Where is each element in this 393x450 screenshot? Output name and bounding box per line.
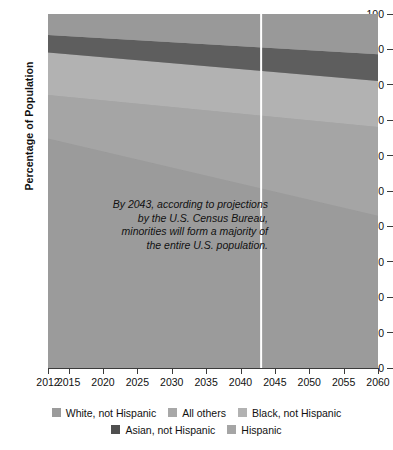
y-tick-mark xyxy=(387,155,393,156)
legend-label: All others xyxy=(182,407,226,419)
x-tick-label: 2020 xyxy=(91,376,114,388)
note-line-2: by the U.S. Census Bureau, xyxy=(58,212,268,226)
legend-row-2: Asian, not HispanicHispanic xyxy=(0,421,393,438)
y-tick-mark xyxy=(387,84,393,85)
y-tick-mark xyxy=(387,297,393,298)
legend-row-1: White, not HispanicAll othersBlack, not … xyxy=(0,404,393,421)
x-tick-mark xyxy=(48,368,49,374)
population-projection-chart: Percentage of Population 010203040506070… xyxy=(0,0,393,450)
legend-item-hispanic[interactable]: Hispanic xyxy=(227,424,281,436)
x-tick-label: 2040 xyxy=(229,376,252,388)
x-tick-mark xyxy=(309,368,310,374)
stacked-area-series xyxy=(48,14,378,368)
x-tick-label: 2015 xyxy=(57,376,80,388)
legend-swatch-icon xyxy=(238,408,247,417)
plot-area xyxy=(48,14,378,368)
x-tick-mark xyxy=(206,368,207,374)
legend-label: Black, not Hispanic xyxy=(252,407,341,419)
x-tick-mark xyxy=(69,368,70,374)
x-tick-mark xyxy=(344,368,345,374)
legend-swatch-icon xyxy=(52,408,61,417)
x-tick-mark xyxy=(241,368,242,374)
y-tick-mark xyxy=(387,261,393,262)
legend-label: Asian, not Hispanic xyxy=(125,424,215,436)
y-tick-mark xyxy=(387,332,393,333)
legend-item-asian-not-hispanic[interactable]: Asian, not Hispanic xyxy=(111,424,215,436)
x-tick-mark xyxy=(103,368,104,374)
x-tick-mark xyxy=(378,368,379,374)
x-tick-mark xyxy=(275,368,276,374)
legend-item-black-not-hispanic[interactable]: Black, not Hispanic xyxy=(238,407,341,419)
y-tick-label: 0 xyxy=(378,362,384,374)
x-tick-label: 2055 xyxy=(332,376,355,388)
x-tick-label: 2045 xyxy=(263,376,286,388)
legend-swatch-icon xyxy=(168,408,177,417)
chart-legend: White, not HispanicAll othersBlack, not … xyxy=(0,404,393,438)
note-line-1: By 2043, according to projections xyxy=(58,198,268,212)
y-tick-mark xyxy=(387,226,393,227)
x-tick-label: 2030 xyxy=(160,376,183,388)
legend-item-all-others[interactable]: All others xyxy=(168,407,226,419)
census-projection-note: By 2043, according to projections by the… xyxy=(58,198,268,252)
x-axis-line xyxy=(48,368,379,369)
x-tick-label: 2035 xyxy=(194,376,217,388)
x-tick-label: 2050 xyxy=(298,376,321,388)
note-line-3: minorities will form a majority of xyxy=(58,225,268,239)
x-tick-label: 2060 xyxy=(366,376,389,388)
x-tick-mark xyxy=(172,368,173,374)
legend-label: Hispanic xyxy=(241,424,281,436)
legend-label: White, not Hispanic xyxy=(66,407,156,419)
y-tick-mark xyxy=(387,14,393,15)
y-tick-mark xyxy=(387,49,393,50)
y-axis-title: Percentage of Population xyxy=(23,31,35,221)
legend-swatch-icon xyxy=(227,425,236,434)
x-tick-mark xyxy=(137,368,138,374)
note-line-4: the entire U.S. population. xyxy=(58,239,268,253)
y-tick-mark xyxy=(387,368,393,369)
x-tick-label: 2025 xyxy=(126,376,149,388)
legend-swatch-icon xyxy=(111,425,120,434)
y-tick-mark xyxy=(387,120,393,121)
y-tick-mark xyxy=(387,191,393,192)
legend-item-white-not-hispanic[interactable]: White, not Hispanic xyxy=(52,407,156,419)
